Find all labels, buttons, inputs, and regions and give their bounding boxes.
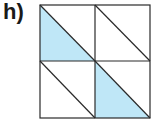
diagonal-top-right [95,5,150,61]
grid-figure [0,0,163,140]
diagonal-bottom-left [40,61,95,118]
